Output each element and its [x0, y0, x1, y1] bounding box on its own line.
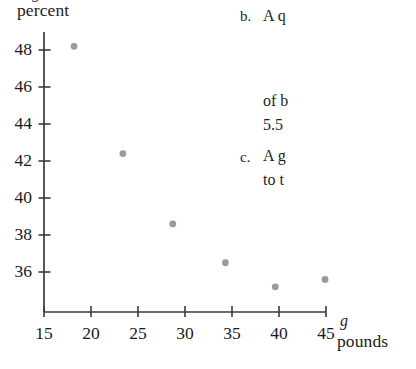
- data-point: [169, 221, 176, 228]
- x-tick-label: 25: [118, 325, 158, 343]
- y-tick-label: 36: [0, 263, 32, 281]
- y-tick-label: 40: [0, 189, 32, 207]
- y-tick-label: 42: [0, 152, 32, 170]
- item-c-marker: c.: [240, 150, 250, 166]
- y-tick-label: 44: [0, 115, 32, 133]
- y-tick-label: 46: [0, 78, 32, 96]
- item-b-line-1: A q: [263, 8, 286, 25]
- item-b-line-2: of b: [263, 93, 288, 110]
- item-c-line-2: to t: [263, 172, 284, 189]
- item-c-line-1: A g: [263, 148, 286, 165]
- item-b-marker: b.: [240, 9, 251, 25]
- x-tick-label: 15: [24, 325, 64, 343]
- data-point: [71, 43, 78, 50]
- y-tick-label: 48: [0, 41, 32, 59]
- data-point: [120, 150, 127, 157]
- x-tick-label: 30: [165, 325, 205, 343]
- item-b-line-3: 5.5: [263, 117, 283, 134]
- y-tick-label: 38: [0, 226, 32, 244]
- exercise-text-column: b. A q of b 5.5 c. A g to t: [240, 0, 416, 369]
- data-point: [222, 259, 229, 266]
- x-tick-label: 20: [71, 325, 111, 343]
